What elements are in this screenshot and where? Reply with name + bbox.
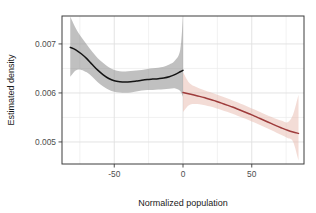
x-tick-label: -50 <box>108 169 120 179</box>
estimated-density-rd-plot: -50050 0.0050.0060.007 Normalized popula… <box>0 0 316 213</box>
x-tick-label: 0 <box>181 169 186 179</box>
x-tick-label: 50 <box>247 169 257 179</box>
x-axis-title: Normalized population <box>138 198 228 208</box>
y-tick-label: 0.007 <box>35 39 56 49</box>
y-axis-title: Estimated density <box>6 54 16 126</box>
chart-figure: -50050 0.0050.0060.007 Normalized popula… <box>0 0 316 213</box>
y-tick-label: 0.006 <box>35 88 56 98</box>
y-tick-label: 0.005 <box>35 137 56 147</box>
